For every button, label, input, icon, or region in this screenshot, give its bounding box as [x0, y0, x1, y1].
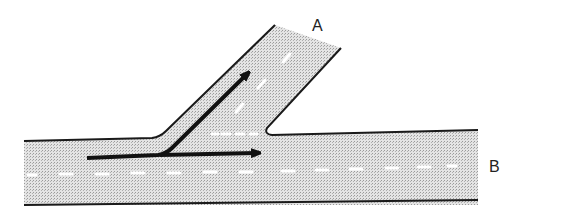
arrow-to-B	[160, 153, 257, 155]
label-branch-a: A	[312, 17, 323, 35]
label-main-b: B	[489, 158, 500, 176]
junction-diagram	[0, 0, 582, 208]
road-surface	[24, 25, 478, 205]
